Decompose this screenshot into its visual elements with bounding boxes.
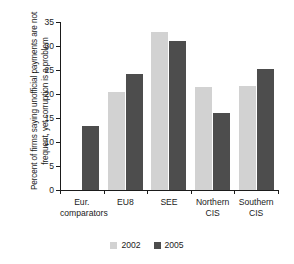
x-tick-mark (104, 190, 105, 194)
bar-group (104, 22, 148, 190)
x-tick-mark (234, 190, 235, 194)
bar-group (191, 22, 235, 190)
x-axis-ticks (60, 190, 278, 195)
y-tick-label: 0 (49, 185, 54, 195)
y-axis-title: Percent of firms saying unofficial payme… (30, 6, 51, 196)
x-category-label-line: comparators (60, 208, 104, 219)
y-tick-label: 30 (44, 41, 54, 51)
bar-2002-southern-cis (239, 86, 256, 190)
y-axis-title-container: Percent of firms saying unofficial payme… (0, 0, 46, 200)
x-tick-mark (147, 190, 148, 194)
x-category-label-line: CIS (191, 208, 235, 219)
legend-item-2002[interactable]: 2002 (110, 240, 140, 250)
y-tick-label: 25 (44, 65, 54, 75)
chart-legend: 20022005 (0, 240, 294, 250)
bar-2002-see (151, 32, 168, 190)
y-tick-label: 35 (44, 17, 54, 27)
bar-group (234, 22, 278, 190)
bar-2002-eu8 (108, 92, 125, 190)
legend-swatch-icon (154, 242, 161, 249)
plot-area: 05101520253035 (60, 22, 278, 190)
x-tick-mark (278, 190, 279, 194)
y-tick-label: 15 (44, 113, 54, 123)
x-category-label: EU8 (104, 197, 148, 208)
x-tick-mark (191, 190, 192, 194)
legend-swatch-icon (110, 242, 117, 249)
x-category-label: NorthernCIS (191, 197, 235, 219)
bar-groups (60, 22, 278, 190)
x-category-label-line: Southern (234, 197, 278, 208)
bar-2005-see (169, 41, 186, 190)
bar-2005-northern-cis (213, 113, 230, 190)
y-tick-label: 5 (49, 161, 54, 171)
bar-group (147, 22, 191, 190)
legend-item-2005[interactable]: 2005 (154, 240, 184, 250)
x-category-label-line: EU8 (104, 197, 148, 208)
x-tick-mark (60, 190, 61, 194)
x-category-label: Eur.comparators (60, 197, 104, 219)
x-category-label-line: Eur. (60, 197, 104, 208)
bar-2002-northern-cis (195, 87, 212, 190)
x-category-label-line: CIS (234, 208, 278, 219)
x-category-label: SEE (147, 197, 191, 208)
bar-group (60, 22, 104, 190)
legend-label: 2005 (165, 240, 184, 250)
y-tick-label: 10 (44, 137, 54, 147)
x-category-label-line: SEE (147, 197, 191, 208)
y-tick-label: 20 (44, 89, 54, 99)
bar-2005-eur-comparators (82, 126, 99, 190)
legend-label: 2002 (121, 240, 140, 250)
bar-2005-eu8 (126, 74, 143, 190)
x-axis-category-labels: Eur.comparatorsEU8SEENorthernCISSouthern… (60, 197, 278, 231)
bar-2005-southern-cis (257, 69, 274, 190)
bar-chart-figure: Percent of firms saying unofficial payme… (0, 0, 294, 264)
x-category-label: SouthernCIS (234, 197, 278, 219)
x-category-label-line: Northern (191, 197, 235, 208)
